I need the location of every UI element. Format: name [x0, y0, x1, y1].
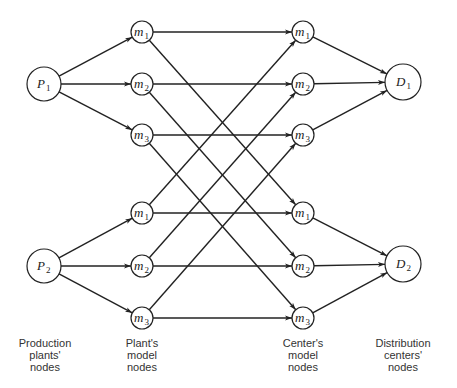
plant-model-node-pm3a: m3 — [131, 124, 153, 146]
plant-model-node-pm2a: m2 — [131, 73, 153, 95]
center-model-node-cm2b: m2 — [292, 255, 314, 277]
caption-line: Distribution — [365, 337, 441, 349]
caption-distribution-centers: Distribution centers' nodes — [365, 337, 441, 373]
edge-arrow-P2-pm3b — [59, 274, 132, 313]
center-model-node-cm3b: m3 — [292, 307, 314, 329]
nodes-layer: P1P2m1m2m3m1m2m3m1m2m3m1m2m3D1D2 — [27, 21, 421, 329]
center-model-node-cm2a: m2 — [292, 73, 314, 95]
edges-layer — [59, 32, 387, 318]
plant-model-node-pm1a: m1 — [131, 21, 153, 43]
edge-arrow-cm1b-D2 — [313, 218, 387, 256]
edge-arrow-cm1a-D1 — [313, 37, 387, 74]
plant-model-node-pm1b: m1 — [131, 202, 153, 224]
production-node-P2: P2 — [27, 249, 61, 283]
edge-arrow-cm2a-D1 — [314, 82, 385, 83]
edge-arrow-P1-pm3a — [59, 92, 132, 130]
center-model-node-cm1a: m1 — [292, 21, 314, 43]
center-model-node-cm1b: m1 — [292, 202, 314, 224]
plant-model-node-pm2b: m2 — [131, 255, 153, 277]
edge-arrow-cm3a-D1 — [313, 90, 387, 129]
caption-line: nodes — [365, 361, 441, 373]
caption-center-models: Center's model nodes — [273, 337, 333, 373]
plant-model-node-pm3b: m3 — [131, 307, 153, 329]
caption-line: model — [273, 349, 333, 361]
caption-line: centers' — [365, 349, 441, 361]
caption-line: Center's — [273, 337, 333, 349]
caption-line: plants' — [10, 349, 80, 361]
caption-plant-models: Plant's model nodes — [112, 337, 172, 373]
caption-line: nodes — [112, 361, 172, 373]
caption-line: nodes — [10, 361, 80, 373]
caption-line: Plant's — [112, 337, 172, 349]
distribution-node-D2: D2 — [385, 246, 421, 282]
caption-line: model — [112, 349, 172, 361]
caption-line: nodes — [273, 361, 333, 373]
caption-line: Production — [10, 337, 80, 349]
edge-arrow-cm3b-D2 — [313, 273, 387, 313]
distribution-node-D1: D1 — [385, 64, 421, 100]
production-node-P1: P1 — [27, 67, 61, 101]
edge-arrow-P2-pm1b — [59, 218, 132, 258]
caption-production-plants: Production plants' nodes — [10, 337, 80, 373]
center-model-node-cm3a: m3 — [292, 124, 314, 146]
edge-arrow-P1-pm1a — [59, 37, 132, 76]
network-diagram: P1P2m1m2m3m1m2m3m1m2m3m1m2m3D1D2 — [0, 0, 457, 388]
edge-arrow-cm2b-D2 — [314, 264, 385, 265]
